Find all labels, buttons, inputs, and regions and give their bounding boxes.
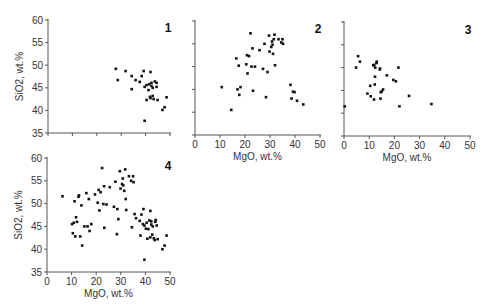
data-point: [273, 33, 276, 36]
data-point: [88, 230, 91, 233]
data-point: [239, 86, 242, 89]
data-point: [386, 74, 389, 77]
data-point: [249, 32, 252, 35]
x-tick-label: 50: [464, 140, 476, 151]
data-point: [293, 91, 296, 94]
data-point: [156, 238, 159, 241]
data-point: [80, 204, 83, 207]
x-axis-label: MgO, wt.%: [84, 288, 133, 299]
x-tick-label: 50: [164, 276, 176, 287]
data-point: [76, 221, 79, 224]
data-point: [262, 68, 265, 71]
x-tick-label: 40: [289, 139, 301, 150]
data-point: [146, 237, 149, 240]
data-point: [151, 95, 154, 98]
data-point: [271, 43, 274, 46]
x-tick-label: 30: [414, 140, 426, 151]
data-point: [103, 226, 106, 229]
data-point: [90, 223, 93, 226]
data-point: [289, 84, 292, 87]
y-tick-label: 55: [32, 37, 44, 48]
data-point: [124, 168, 127, 171]
data-point: [138, 220, 141, 223]
data-point: [124, 70, 127, 73]
x-tick-label: 0: [192, 139, 198, 150]
y-tick-label: 60: [31, 153, 43, 164]
data-point: [258, 49, 261, 52]
data-point: [115, 68, 118, 71]
data-point: [135, 217, 138, 220]
data-point: [85, 192, 88, 195]
y-tick-label: 45: [32, 82, 44, 93]
panel-2: 01020304050MgO, wt.%2: [192, 20, 326, 162]
data-point: [134, 79, 137, 82]
data-point: [133, 213, 136, 216]
data-point: [163, 244, 166, 247]
data-point: [398, 105, 401, 108]
data-point: [99, 191, 102, 194]
data-point: [290, 97, 293, 100]
data-point: [131, 226, 134, 229]
data-point: [266, 71, 269, 74]
data-point: [119, 170, 122, 173]
data-point: [72, 232, 75, 235]
data-point: [369, 85, 372, 88]
y-tick-label: 60: [32, 15, 44, 26]
data-point: [272, 53, 275, 56]
data-point: [373, 98, 376, 101]
data-point: [121, 177, 124, 180]
data-point: [148, 219, 151, 222]
data-point: [248, 55, 251, 58]
data-point: [151, 225, 154, 228]
data-point: [61, 195, 64, 198]
data-point: [124, 198, 127, 201]
data-point: [154, 221, 157, 224]
x-tick-label: 40: [439, 140, 451, 151]
data-point: [251, 47, 254, 50]
data-point: [379, 67, 382, 70]
data-point: [156, 99, 159, 102]
data-point: [254, 65, 257, 68]
data-point: [165, 234, 168, 237]
data-point: [119, 187, 122, 190]
data-point: [392, 79, 395, 82]
x-tick-label: 20: [389, 140, 401, 151]
data-point: [102, 203, 105, 206]
data-point: [130, 75, 133, 78]
data-point: [132, 181, 135, 184]
x-axis-label: MgO, wt.%: [233, 151, 282, 162]
data-point: [116, 233, 119, 236]
data-point: [143, 119, 146, 122]
data-point: [277, 38, 280, 41]
y-tick-label: 45: [31, 221, 43, 232]
y-tick-label: 50: [31, 198, 43, 209]
scatter-figure: 354045505560SiO2, wt.%1 01020304050MgO, …: [0, 0, 490, 307]
y-axis-label: SiO2, wt.%: [13, 190, 24, 240]
data-point: [382, 88, 385, 91]
data-point: [237, 64, 240, 67]
data-point: [153, 239, 156, 242]
data-point: [128, 175, 131, 178]
data-point: [81, 244, 84, 247]
data-point: [113, 205, 116, 208]
data-point: [101, 167, 104, 170]
data-point: [125, 209, 128, 212]
data-point: [138, 81, 141, 84]
y-tick-label: 40: [32, 105, 44, 116]
data-point: [152, 98, 155, 101]
data-point: [230, 109, 233, 112]
data-point: [155, 86, 158, 89]
x-tick-label: 0: [341, 140, 347, 151]
x-tick-label: 10: [66, 276, 78, 287]
panel-3: 01020304050MgO, wt.%3: [341, 21, 476, 163]
data-point: [147, 89, 150, 92]
data-point: [149, 71, 152, 74]
data-point: [139, 234, 142, 237]
data-point: [161, 109, 164, 112]
x-tick-label: 30: [264, 139, 276, 150]
data-point: [142, 70, 145, 73]
data-point: [302, 103, 305, 106]
data-point: [149, 210, 152, 213]
data-point: [263, 43, 266, 46]
data-point: [397, 66, 400, 69]
